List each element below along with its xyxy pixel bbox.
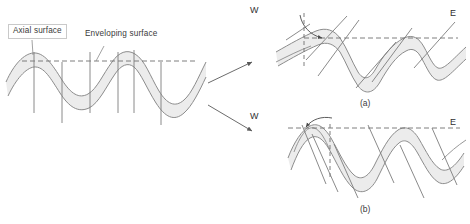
panel-left <box>6 40 206 125</box>
axial-surface-label: Axial surface <box>8 24 67 39</box>
arrow-to-panel-a <box>208 62 252 83</box>
figure-canvas <box>0 0 470 224</box>
axial-surface-a-4 <box>372 28 412 82</box>
folded-layer-band-left <box>6 52 206 118</box>
caption-panel-b: (b) <box>360 205 370 214</box>
arrow-to-panel-b <box>208 105 252 131</box>
compass-east-panel-b: E <box>450 118 456 127</box>
folded-layer-band-a <box>276 29 466 92</box>
compass-west-panel-b: W <box>250 112 259 121</box>
panel-b <box>288 117 466 198</box>
structural-geology-figure: Axial surface Enveloping surface W E (a)… <box>0 0 470 224</box>
transition-arrows <box>208 62 252 131</box>
compass-west-panel-a: W <box>250 6 259 15</box>
panel-a <box>276 13 466 92</box>
enveloping-surface-label: Enveloping surface <box>85 30 157 38</box>
caption-panel-a: (a) <box>360 99 370 108</box>
leader-enveloping-surface <box>96 46 104 61</box>
compass-east-panel-a: E <box>450 9 456 18</box>
axial-surface-b-3 <box>334 144 358 198</box>
